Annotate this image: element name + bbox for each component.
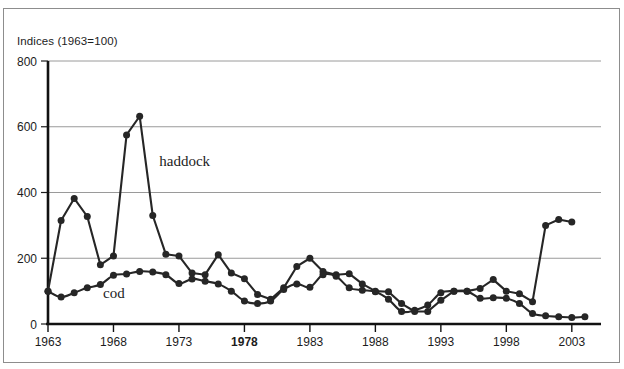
data-point-cod-14 (228, 288, 235, 295)
data-point-haddock-20 (306, 255, 313, 262)
data-point-cod-22 (333, 273, 340, 280)
xtick-label-1973: 1973 (166, 335, 193, 349)
data-point-cod-29 (424, 301, 431, 308)
data-point-cod-21 (320, 271, 327, 278)
series-annotation-cod: cod (103, 285, 125, 301)
data-point-haddock-15 (241, 275, 248, 282)
line-chart-plot: 0200400600800196319681973197819831988199… (4, 9, 620, 363)
data-point-haddock-27 (398, 300, 405, 307)
data-point-haddock-2 (71, 195, 78, 202)
data-point-cod-13 (215, 280, 222, 287)
data-point-haddock-35 (503, 288, 510, 295)
data-point-haddock-7 (136, 113, 143, 120)
data-point-cod-27 (398, 308, 405, 315)
ytick-label-800: 800 (17, 55, 37, 69)
data-point-haddock-8 (149, 212, 156, 219)
data-point-haddock-34 (490, 276, 497, 283)
data-point-haddock-4 (97, 261, 104, 268)
data-point-cod-39 (555, 313, 562, 320)
data-point-haddock-12 (202, 271, 209, 278)
data-point-cod-23 (346, 284, 353, 291)
data-point-haddock-26 (385, 288, 392, 295)
data-point-haddock-40 (568, 219, 575, 226)
ytick-label-600: 600 (17, 120, 37, 134)
data-point-cod-8 (149, 269, 156, 276)
data-point-haddock-30 (437, 297, 444, 304)
data-point-haddock-1 (58, 217, 65, 224)
data-point-cod-0 (45, 288, 52, 295)
data-point-haddock-24 (359, 280, 366, 287)
data-point-haddock-16 (254, 291, 261, 298)
data-point-cod-25 (372, 288, 379, 295)
data-point-cod-12 (202, 278, 209, 285)
xtick-label-1983: 1983 (297, 335, 324, 349)
data-point-haddock-23 (346, 270, 353, 277)
data-point-cod-19 (293, 280, 300, 287)
data-point-haddock-37 (529, 298, 536, 305)
data-point-haddock-13 (215, 251, 222, 258)
data-point-cod-40 (568, 314, 575, 321)
xtick-label-2003: 2003 (558, 335, 585, 349)
data-point-haddock-19 (293, 263, 300, 270)
data-point-cod-37 (529, 310, 536, 317)
series-line-cod (48, 271, 585, 317)
xtick-label-1963: 1963 (35, 335, 62, 349)
data-point-cod-6 (123, 271, 130, 278)
ytick-label-200: 200 (17, 252, 37, 266)
data-point-haddock-5 (110, 252, 117, 259)
chart-figure: Indices (1963=100) 020040060080019631968… (3, 8, 620, 363)
data-point-cod-31 (450, 288, 457, 295)
xtick-label-1993: 1993 (428, 335, 455, 349)
data-point-cod-35 (503, 295, 510, 302)
data-point-cod-33 (477, 295, 484, 302)
data-point-cod-11 (189, 275, 196, 282)
data-point-cod-2 (71, 289, 78, 296)
ytick-label-400: 400 (17, 186, 37, 200)
data-point-cod-16 (254, 300, 261, 307)
data-point-haddock-6 (123, 131, 130, 138)
xtick-label-1988: 1988 (362, 335, 389, 349)
data-point-cod-24 (359, 287, 366, 294)
data-point-cod-15 (241, 297, 248, 304)
xtick-label-1998: 1998 (493, 335, 520, 349)
data-point-haddock-9 (162, 251, 169, 258)
data-point-haddock-14 (228, 270, 235, 277)
data-point-cod-34 (490, 294, 497, 301)
data-point-cod-5 (110, 272, 117, 279)
data-point-cod-36 (516, 300, 523, 307)
series-annotation-haddock: haddock (159, 153, 210, 169)
data-point-cod-1 (58, 294, 65, 301)
data-point-cod-26 (385, 296, 392, 303)
data-point-cod-41 (581, 313, 588, 320)
data-point-cod-32 (464, 288, 471, 295)
data-point-haddock-39 (555, 216, 562, 223)
data-point-haddock-38 (542, 222, 549, 229)
data-point-haddock-29 (424, 308, 431, 315)
xtick-label-1978: 1978 (231, 335, 258, 349)
data-point-cod-17 (267, 297, 274, 304)
data-point-haddock-10 (175, 252, 182, 259)
data-point-cod-18 (280, 286, 287, 293)
data-point-haddock-36 (516, 290, 523, 297)
data-point-cod-9 (162, 271, 169, 278)
data-point-haddock-33 (477, 285, 484, 292)
data-point-cod-38 (542, 312, 549, 319)
data-point-cod-7 (136, 268, 143, 275)
data-point-cod-20 (306, 284, 313, 291)
data-point-cod-28 (411, 307, 418, 314)
data-point-cod-10 (175, 280, 182, 287)
ytick-label-0: 0 (30, 318, 37, 332)
data-point-cod-3 (84, 284, 91, 291)
data-point-cod-30 (437, 289, 444, 296)
data-point-haddock-3 (84, 213, 91, 220)
xtick-label-1968: 1968 (100, 335, 127, 349)
